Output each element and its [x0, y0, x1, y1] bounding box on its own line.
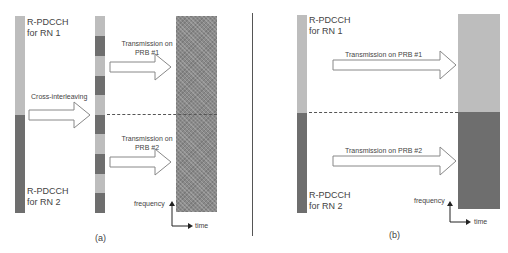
- stripe-2: [95, 36, 105, 56]
- stripe-4: [95, 76, 105, 95]
- time-axis-label: time: [474, 217, 487, 226]
- prb1-block: [458, 14, 500, 112]
- rn2-label: R-PDCCH for RN 2: [309, 190, 351, 212]
- tx-prb1-arrow-icon: [332, 50, 458, 80]
- panel-a-caption: (a): [95, 233, 106, 243]
- tx-prb2-arrow-icon: [332, 146, 458, 176]
- rn1-label: R-PDCCH for RN 1: [309, 15, 351, 37]
- stripe-8: [95, 154, 105, 174]
- prb-boundary-dashed-line: [309, 112, 458, 113]
- stripe-10: [95, 193, 105, 213]
- stripe-7: [95, 134, 105, 154]
- stripe-9: [95, 174, 105, 193]
- rn2-control-region: [15, 115, 25, 213]
- rn2-label: R-PDCCH for RN 2: [27, 186, 69, 208]
- panel-divider: [252, 13, 253, 236]
- stripe-6: [95, 115, 105, 134]
- time-axis-label: time: [195, 221, 208, 230]
- stripe-1: [95, 16, 105, 36]
- frequency-axis-label: frequency: [134, 199, 165, 208]
- rn2-control-region: [297, 113, 307, 213]
- rn1-control-region: [15, 16, 25, 115]
- frequency-axis-label: frequency: [414, 196, 445, 205]
- tx-prb1-arrow-icon: [109, 52, 173, 82]
- tx-prb2-arrow-icon: [109, 147, 173, 177]
- rn1-control-region: [297, 15, 307, 113]
- prb-boundary-dashed-line: [107, 114, 217, 115]
- panel-b-caption: (b): [389, 230, 400, 240]
- prb2-block: [458, 112, 500, 209]
- rn1-label: R-PDCCH for RN 1: [27, 17, 69, 39]
- cross-interleaving-arrow-icon: [28, 100, 92, 130]
- stripe-3: [95, 56, 105, 76]
- stripe-5: [95, 95, 105, 115]
